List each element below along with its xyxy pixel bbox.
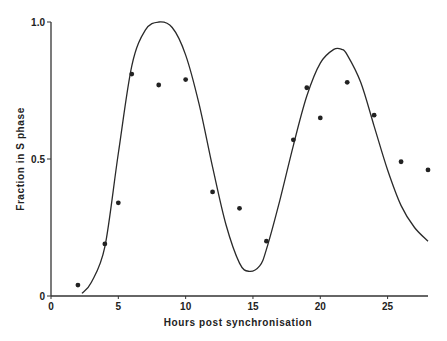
y-tick-label: 0.5 bbox=[31, 154, 45, 165]
data-point bbox=[156, 83, 161, 88]
data-points bbox=[76, 72, 431, 288]
data-point bbox=[76, 283, 81, 288]
data-point bbox=[291, 137, 296, 142]
data-point bbox=[210, 189, 215, 194]
x-axis-label: Hours post synchronisation bbox=[164, 317, 312, 328]
y-tick-label: 0 bbox=[39, 291, 45, 302]
x-tick-label: 25 bbox=[382, 301, 394, 312]
x-tick-label: 0 bbox=[48, 301, 54, 312]
x-tick-label: 15 bbox=[247, 301, 259, 312]
x-tick-label: 5 bbox=[116, 301, 122, 312]
data-point bbox=[372, 113, 377, 118]
x-tick-label: 20 bbox=[315, 301, 327, 312]
y-tick-label: 1.0 bbox=[31, 17, 45, 28]
data-point bbox=[345, 80, 350, 85]
data-point bbox=[237, 206, 242, 211]
y-axis-label: Fraction in S phase bbox=[15, 107, 26, 211]
data-point bbox=[318, 116, 323, 121]
data-point bbox=[264, 239, 269, 244]
data-point bbox=[304, 85, 309, 90]
x-tick-label: 10 bbox=[180, 301, 192, 312]
data-point bbox=[116, 200, 121, 205]
axes: 051015202500.51.0 bbox=[31, 17, 428, 313]
data-point bbox=[102, 242, 107, 247]
data-point bbox=[129, 72, 134, 77]
fit-curve bbox=[82, 22, 428, 293]
data-point bbox=[426, 168, 431, 173]
data-point bbox=[183, 77, 188, 82]
data-point bbox=[399, 159, 404, 164]
chart: 051015202500.51.0 Hours post synchronisa… bbox=[0, 0, 447, 341]
fit-curve-path bbox=[82, 22, 428, 293]
